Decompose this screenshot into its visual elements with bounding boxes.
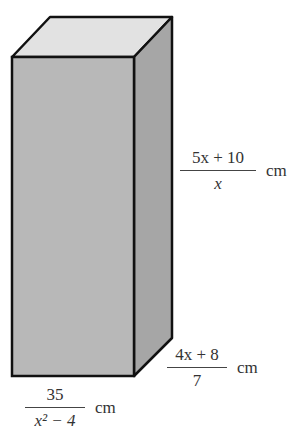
depth-denominator: 7 — [193, 368, 202, 391]
height-fraction: 5x + 10 x — [180, 148, 256, 194]
front-face — [12, 57, 134, 376]
side-face — [134, 17, 172, 376]
height-numerator: 5x + 10 — [190, 148, 246, 170]
depth-label: 4x + 8 7 cm — [167, 345, 258, 391]
width-fraction: 35 x² − 4 — [25, 385, 85, 431]
height-denominator: x — [214, 171, 222, 194]
rectangular-prism — [0, 0, 304, 433]
depth-numerator: 4x + 8 — [173, 345, 221, 367]
width-numerator: 35 — [45, 385, 66, 407]
height-unit: cm — [266, 161, 287, 181]
width-label: 35 x² − 4 cm — [25, 385, 116, 431]
depth-unit: cm — [237, 358, 258, 378]
width-denominator: x² − 4 — [34, 408, 75, 431]
depth-fraction: 4x + 8 7 — [167, 345, 227, 391]
width-unit: cm — [95, 398, 116, 418]
height-label: 5x + 10 x cm — [180, 148, 287, 194]
